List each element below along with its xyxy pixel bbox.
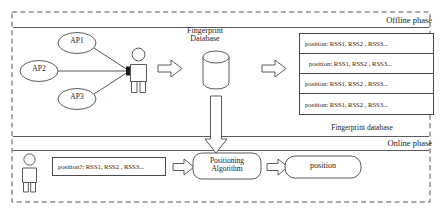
- fingerprint-database-title-line2: Database: [160, 35, 250, 43]
- table-row: position: RSS1, RSS2 , RSS3...: [300, 94, 433, 114]
- signal-line-ap3: [94, 72, 128, 94]
- online-measurement-text: position?: RSS1, RSS2 , RSS3...: [58, 163, 144, 170]
- signal-receiver-marker: [126, 67, 131, 76]
- arrow-person-to-database: [158, 60, 182, 77]
- positioning-algorithm-label-line2: Algorithm: [196, 165, 258, 173]
- table-row: position: RSS1, RSS2 , RSS3...: [300, 34, 433, 54]
- offline-phase-label: Offline phase: [386, 16, 432, 25]
- positioning-algorithm-label: Positioning Algorithm: [196, 157, 258, 173]
- table-row-text: position: RSS1, RSS2 , RSS3...: [305, 80, 388, 87]
- fingerprint-database-table: position: RSS1, RSS2 , RSS3... position:…: [299, 33, 434, 115]
- access-point-ap2-label: AP2: [22, 65, 56, 73]
- table-row: position: RSS1, RSS2 , RSS3...: [300, 74, 433, 94]
- access-point-ap1-label: AP1: [60, 37, 94, 45]
- fingerprint-database-title: Fingerprint Database: [160, 27, 250, 44]
- table-row: position: RSS1, RSS2 , RSS3...: [300, 54, 433, 74]
- online-measurement-box: position?: RSS1, RSS2 , RSS3...: [52, 157, 166, 176]
- position-result-label: position: [288, 162, 358, 170]
- signal-line-ap1: [94, 48, 128, 70]
- fingerprint-database-cylinder-icon: [203, 51, 229, 89]
- offline-user-person-icon: [131, 48, 147, 92]
- online-user-person-icon: [23, 154, 37, 192]
- table-row-text: position: RSS1, RSS2 , RSS3...: [309, 60, 392, 67]
- table-row-text: position: RSS1, RSS2 , RSS3...: [305, 101, 388, 108]
- table-row-text: position: RSS1, RSS2 , RSS3...: [305, 40, 388, 47]
- fingerprint-database-caption: Fingerprint database: [292, 124, 432, 132]
- arrow-measurement-to-algorithm: [173, 159, 194, 175]
- access-point-ap3-label: AP3: [60, 93, 94, 101]
- arrow-database-to-table: [262, 60, 286, 77]
- arrow-offline-to-online: [205, 96, 227, 153]
- online-phase-label: Online phase: [387, 139, 432, 148]
